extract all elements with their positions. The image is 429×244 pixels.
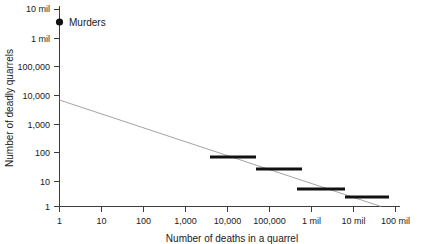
axis-spines	[60, 6, 401, 207]
y-tick-label-1mil: 1 mil	[31, 34, 50, 44]
data-series-deadly-quarrels	[210, 157, 389, 197]
y-tick-label-10000: 10,000	[22, 91, 50, 101]
y-tick-label-1: 1	[45, 202, 50, 212]
x-tick-label-100: 100	[136, 216, 151, 226]
y-tick-label-100: 100	[35, 148, 50, 158]
chart-figure: 10 mil 1 mil 100,000 10,000 1,000 100 10…	[0, 0, 429, 244]
x-axis-tick-labels: 1 10 100 1,000 10,000 100,000 1 mil 10 m…	[57, 216, 410, 226]
x-axis-title: Number of deaths in a quarrel	[166, 233, 298, 244]
x-tick-label-10000: 10,000	[214, 216, 242, 226]
y-axis-tick-labels: 10 mil 1 mil 100,000 10,000 1,000 100 10…	[17, 4, 50, 212]
x-tick-label-1000: 1,000	[174, 216, 197, 226]
deadly-quarrels-loglog-plot: 10 mil 1 mil 100,000 10,000 1,000 100 10…	[0, 0, 429, 244]
x-axis-ticks	[60, 207, 396, 213]
x-tick-label-100000: 100,000	[253, 216, 286, 226]
x-tick-label-100mil: 100 mil	[381, 216, 410, 226]
y-axis-ticks	[54, 10, 60, 207]
murders-dot-icon	[56, 18, 63, 25]
x-tick-label-10mil: 10 mil	[341, 216, 365, 226]
y-tick-label-1000: 1,000	[27, 120, 50, 130]
murders-annotation: Murders	[56, 17, 106, 28]
x-tick-label-10: 10	[96, 216, 106, 226]
y-tick-label-100000: 100,000	[17, 62, 50, 72]
y-axis-title: Number of deadly quarrels	[4, 49, 15, 167]
x-tick-label-1: 1	[57, 216, 62, 226]
y-tick-label-10: 10	[40, 177, 50, 187]
murders-label: Murders	[69, 17, 106, 28]
x-tick-label-1mil: 1 mil	[302, 216, 321, 226]
y-tick-label-10mil: 10 mil	[26, 4, 50, 14]
